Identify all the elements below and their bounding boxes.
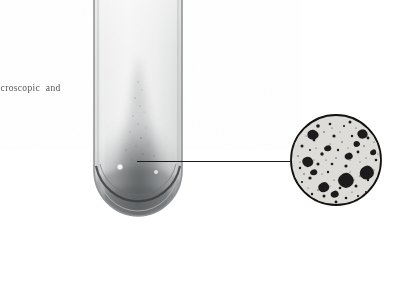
leader-line bbox=[137, 161, 292, 162]
tube-interior bbox=[88, 0, 188, 218]
figure-plate: acroscopic and bbox=[0, 0, 395, 282]
magnified-inset bbox=[288, 110, 386, 210]
specular-highlight-left bbox=[117, 164, 124, 171]
caption-text-fragment: acroscopic and bbox=[0, 83, 61, 93]
magnified-inset-graphic bbox=[288, 110, 386, 210]
test-tube bbox=[88, 0, 188, 218]
test-tube-graphic bbox=[88, 0, 188, 218]
specular-highlight-right bbox=[153, 169, 158, 174]
